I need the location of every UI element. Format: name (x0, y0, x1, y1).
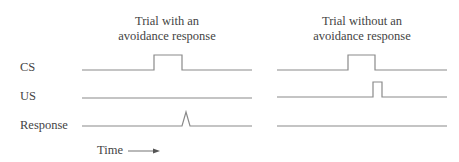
time-arrow-head (153, 149, 160, 154)
timing-diagram (0, 0, 459, 162)
cs-trace-with-avoidance (82, 55, 252, 70)
time-axis-label: Time (97, 143, 123, 158)
cs-trace-without-avoidance (277, 55, 447, 70)
response-trace-with-avoidance (82, 112, 252, 126)
us-trace-without-avoidance (277, 82, 447, 97)
